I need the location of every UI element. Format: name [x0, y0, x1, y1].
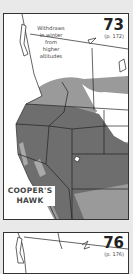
species-label: COOPER'S HAWK	[5, 186, 55, 206]
species-name-line: COOPER'S	[5, 186, 55, 196]
annotation-line: in winter	[30, 32, 72, 39]
map-number: 73	[103, 18, 124, 33]
coastline-islands	[16, 237, 24, 263]
map-number: 76	[103, 236, 124, 251]
range-annotation: Withdraws in winter from higher altitude…	[30, 25, 72, 60]
annotation-line: from	[30, 39, 72, 46]
page-reference: (p. 172)	[104, 33, 124, 39]
page-reference: (p. 176)	[104, 251, 124, 257]
annotation-line: altitudes	[30, 53, 72, 60]
annotation-line: higher	[30, 46, 72, 53]
annotation-line: Withdraws	[30, 25, 72, 32]
species-name-line: HAWK	[5, 196, 55, 206]
range-map-cooper-hawk: Withdraws in winter from higher altitude…	[3, 13, 129, 220]
range-map-next: 76 (p. 176)	[3, 232, 129, 274]
